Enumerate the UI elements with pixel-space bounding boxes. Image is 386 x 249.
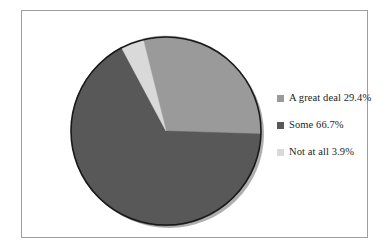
legend-label-a-great-deal: A great deal 29.4% <box>289 92 371 104</box>
chart-legend: A great deal 29.4% Some 66.7% Not at all… <box>277 91 386 172</box>
legend-item-some[interactable]: Some 66.7% <box>277 118 386 132</box>
pie-chart-area <box>66 33 266 231</box>
legend-item-not-at-all[interactable]: Not at all 3.9% <box>277 145 386 159</box>
legend-swatch-a-great-deal <box>277 95 284 102</box>
legend-label-not-at-all: Not at all 3.9% <box>289 146 354 158</box>
legend-label-some: Some 66.7% <box>289 119 344 131</box>
legend-swatch-some <box>277 122 284 129</box>
pie-chart-svg <box>66 33 266 231</box>
legend-swatch-not-at-all <box>277 149 284 156</box>
figure-canvas: A great deal 29.4% Some 66.7% Not at all… <box>0 0 386 249</box>
chart-frame-border: A great deal 29.4% Some 66.7% Not at all… <box>21 10 368 238</box>
legend-item-a-great-deal[interactable]: A great deal 29.4% <box>277 91 386 105</box>
